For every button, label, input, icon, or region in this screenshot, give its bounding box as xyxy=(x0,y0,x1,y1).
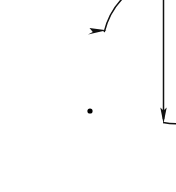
figure-canvas xyxy=(0,0,176,192)
circular-arc xyxy=(104,0,176,124)
circular-motion-figure xyxy=(0,0,176,192)
center-point-dot xyxy=(87,108,92,113)
